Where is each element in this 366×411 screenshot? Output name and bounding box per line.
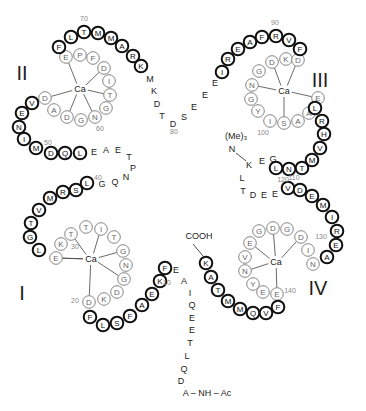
residue-letter: A — [295, 117, 301, 126]
linker-residue: T — [159, 111, 165, 121]
linker-residue: E — [259, 156, 265, 166]
residue-letter: D — [101, 64, 107, 73]
helix-residue: T — [212, 284, 225, 297]
residue-letter: R — [273, 32, 279, 41]
coordination-line — [62, 258, 83, 259]
coordination-line — [251, 264, 268, 270]
trimethyl-label: (Me)₃ — [225, 131, 247, 141]
linker-residue: Q — [180, 364, 187, 374]
residue-letter: D — [42, 94, 48, 103]
residue-letter: D — [295, 56, 301, 65]
loop-residue: I — [103, 75, 116, 88]
residue-letter: T — [112, 233, 117, 242]
helix-residue: R — [222, 53, 235, 66]
helix-residue: R — [57, 186, 70, 199]
residue-letter: E — [309, 192, 314, 201]
helix-residue: V — [314, 142, 327, 155]
residue-letter: F — [298, 45, 303, 54]
linker-residue: E — [173, 265, 179, 275]
residue-letter: F — [128, 312, 133, 321]
residue-letter: S — [114, 319, 119, 328]
calmodulin-diagram: IIIIIIIV CaCaCaCa EPFDITGNGDADEKTTITGNGD… — [0, 0, 366, 411]
coordination-line — [287, 66, 295, 86]
residue-letter: N — [16, 123, 22, 132]
linker-residue: T — [126, 152, 132, 162]
residue-letter: G — [121, 275, 127, 284]
helix-residue: H — [318, 128, 331, 141]
residue-letter: P — [77, 51, 82, 60]
residue-letter: L — [69, 33, 74, 42]
residue-number: 140 — [284, 287, 296, 294]
residue-letter: A — [119, 42, 125, 51]
helix-residue: T — [78, 26, 91, 39]
residue-letter: Q — [250, 309, 256, 318]
methyl-bond — [236, 153, 246, 161]
loop-residue: P — [74, 49, 87, 62]
loop-residue: G — [75, 114, 88, 127]
helix-residue: M — [92, 27, 105, 40]
residue-letter: D — [297, 186, 303, 195]
coordination-line — [70, 94, 77, 111]
loop-residue: G — [117, 245, 130, 258]
linker-residue: A — [103, 145, 109, 155]
linker-residues: MKDTDSEEEEAETPNQGNKEGLTDEEEAIQEETLQD — [91, 74, 278, 386]
helix-residue: M — [105, 32, 118, 45]
residue-number: 40 — [94, 174, 102, 181]
residue-letter: G — [248, 95, 254, 104]
helix-residue: A — [244, 36, 257, 49]
helix-residue: A — [205, 271, 218, 284]
residue-letter: R — [334, 227, 340, 236]
helix-residue: I — [216, 66, 229, 79]
linker-residue: N — [229, 144, 236, 154]
residue-letter: S — [281, 119, 286, 128]
residue-letter: F — [91, 54, 96, 63]
residue-letter: E — [235, 45, 240, 54]
residue-letter: G — [103, 104, 109, 113]
loop-residue: G — [118, 273, 131, 286]
residue-letter: H — [321, 130, 327, 139]
residue-letter: I — [221, 68, 223, 77]
coordination-line — [88, 90, 104, 94]
helix-residue: V — [283, 34, 296, 47]
residue-letter: L — [37, 246, 42, 255]
loop-residue: T — [108, 231, 121, 244]
residue-letter: V — [29, 99, 35, 108]
residue-letter: T — [69, 230, 74, 239]
loop-residue: G — [281, 223, 294, 236]
loop-residue: N — [120, 259, 133, 272]
residue-letter: K — [203, 259, 209, 268]
loop-residue: D — [61, 111, 74, 124]
helix-residue: E — [146, 288, 159, 301]
residue-letter: M — [95, 29, 102, 38]
helix-residue: F — [124, 310, 137, 323]
helix-residue: E — [306, 190, 319, 203]
helix-residue: A — [116, 40, 129, 53]
residue-letter: K — [138, 62, 144, 71]
loop-residue: Y — [252, 105, 265, 118]
linker-residue: E — [261, 190, 267, 200]
loop-residue: D — [83, 296, 96, 309]
helix-residue: M — [44, 192, 57, 205]
linker-residue: E — [115, 145, 121, 155]
residue-letter: R — [319, 117, 325, 126]
loop-residue: T — [80, 221, 93, 234]
residue-number: 120 — [277, 176, 289, 183]
residue-letter: N — [92, 113, 98, 122]
linker-residue: K — [151, 86, 157, 96]
residue-letter: Q — [62, 149, 68, 158]
helix-residue: V — [260, 307, 273, 320]
residue-letter: V — [285, 184, 291, 193]
loop-residue: D — [98, 62, 111, 75]
helix-residue: A — [136, 299, 149, 312]
loop-residue: V — [239, 251, 252, 264]
coordination-line — [84, 94, 92, 111]
domain-label-ii: II — [16, 62, 27, 84]
helix-residue: F — [294, 43, 307, 56]
residue-letter: F — [276, 303, 281, 312]
linker-residue: E — [212, 78, 218, 88]
loop-residue: T — [104, 89, 117, 102]
helix-residue: M — [234, 303, 247, 316]
linker-residue: E — [189, 325, 195, 335]
coordination-line — [99, 253, 117, 258]
loop-residue: N — [307, 258, 320, 271]
